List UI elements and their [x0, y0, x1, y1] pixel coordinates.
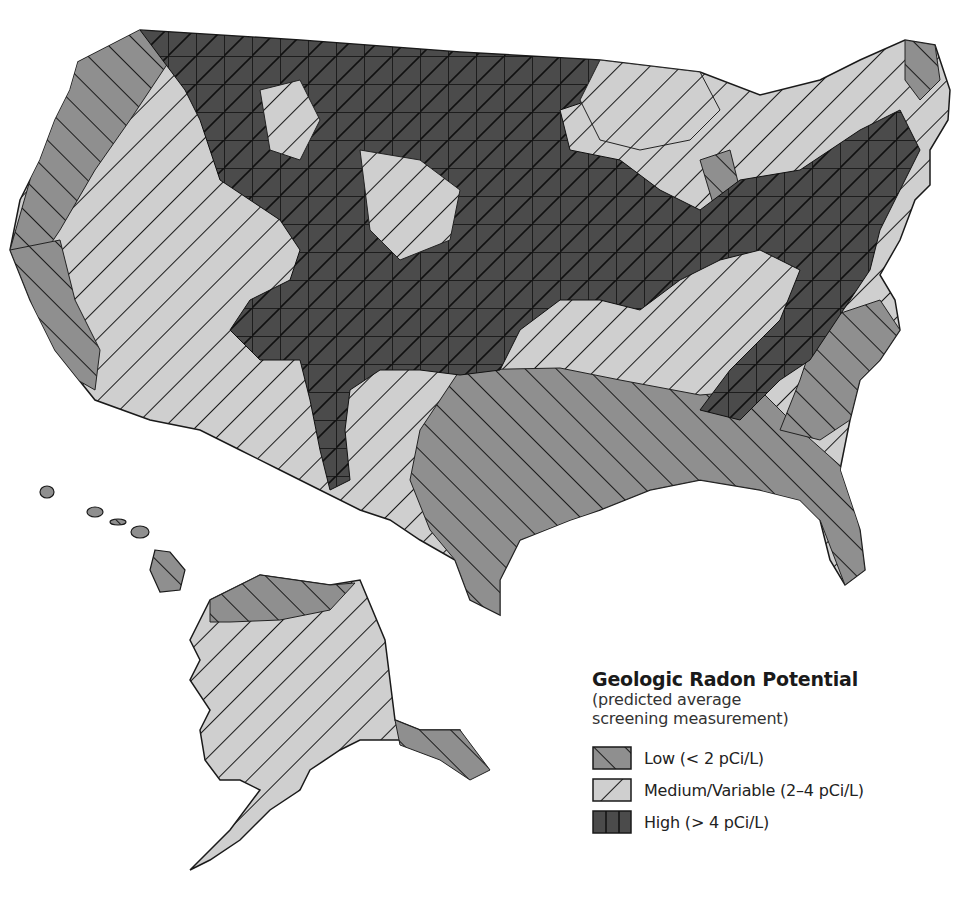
- legend-item-medium: Medium/Variable (2–4 pCi/L): [592, 774, 952, 806]
- low-swatch-icon: [592, 746, 632, 770]
- legend-title: Geologic Radon Potential: [592, 668, 952, 690]
- high-swatch-icon: [592, 810, 632, 834]
- medium-swatch-icon: [592, 778, 632, 802]
- hawaii: [40, 486, 185, 592]
- hawaii-maui: [131, 526, 149, 538]
- legend-item-low: Low (< 2 pCi/L): [592, 742, 952, 774]
- contiguous-us: [10, 28, 950, 615]
- hawaii-molokai: [110, 519, 126, 525]
- legend-label-low: Low (< 2 pCi/L): [644, 749, 764, 768]
- legend-subtitle-2: screening measurement): [592, 709, 952, 728]
- alaska-low-panhandle: [395, 720, 490, 780]
- alaska: [190, 575, 490, 870]
- legend-subtitle-1: (predicted average: [592, 690, 952, 709]
- hawaii-big-island: [150, 550, 185, 592]
- legend-label-high: High (> 4 pCi/L): [644, 813, 769, 832]
- legend: Geologic Radon Potential (predicted aver…: [592, 668, 952, 838]
- hawaii-kauai: [40, 486, 54, 498]
- legend-items: Low (< 2 pCi/L) Medium/Variable (2–4 pCi…: [592, 742, 952, 838]
- legend-item-high: High (> 4 pCi/L): [592, 806, 952, 838]
- hawaii-oahu: [87, 507, 103, 517]
- legend-label-medium: Medium/Variable (2–4 pCi/L): [644, 781, 864, 800]
